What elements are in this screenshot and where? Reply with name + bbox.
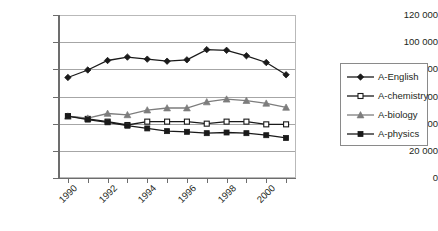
x-tick-label: 1992 — [89, 183, 119, 213]
x-tick-mark — [147, 178, 148, 183]
legend-item[interactable]: A-English — [345, 68, 427, 86]
legend-marker-icon — [345, 106, 376, 124]
x-tick-label: 1994 — [129, 183, 159, 213]
legend-marker-icon — [345, 87, 376, 105]
x-tick-label: 1990 — [49, 183, 79, 213]
x-tick-mark — [286, 178, 287, 183]
legend-label: A-chemistry — [378, 90, 428, 101]
legend-marker-icon — [345, 125, 376, 143]
legend-item[interactable]: A-physics — [345, 125, 427, 143]
legend-label: A-biology — [378, 109, 418, 120]
y-tick-label: 20 000 — [384, 146, 438, 156]
gridline — [59, 151, 295, 152]
y-axis-line — [58, 15, 60, 179]
legend-label: A-physics — [378, 128, 419, 139]
legend-marker-icon — [345, 68, 376, 86]
gridline — [59, 124, 295, 125]
x-tick-mark — [246, 178, 247, 183]
chart-container: 120 000100 00080 00060 00040 00020 0000 … — [0, 0, 438, 231]
gridline — [59, 42, 295, 43]
x-tick-mark — [127, 178, 128, 183]
plot-area — [58, 15, 296, 178]
x-tick-mark — [108, 178, 109, 183]
x-tick-label: 1996 — [168, 183, 198, 213]
y-tick-label: 120 000 — [384, 10, 438, 20]
x-tick-label: 2000 — [248, 183, 278, 213]
gridline — [59, 97, 295, 98]
x-tick-mark — [88, 178, 89, 183]
x-tick-label: 1998 — [208, 183, 238, 213]
legend-label: A-English — [378, 71, 419, 82]
x-axis-line — [58, 178, 296, 179]
x-tick-mark — [187, 178, 188, 183]
x-tick-mark — [227, 178, 228, 183]
legend-item[interactable]: A-chemistry — [345, 87, 427, 105]
legend-item[interactable]: A-biology — [345, 106, 427, 124]
gridline — [59, 69, 295, 70]
chart-legend: A-EnglishA-chemistryA-biologyA-physics — [340, 63, 428, 146]
y-tick-label: 100 000 — [384, 37, 438, 47]
y-tick-label: 0 — [384, 173, 438, 183]
x-tick-mark — [207, 178, 208, 183]
x-tick-mark — [266, 178, 267, 183]
x-tick-mark — [68, 178, 69, 183]
x-tick-mark — [167, 178, 168, 183]
